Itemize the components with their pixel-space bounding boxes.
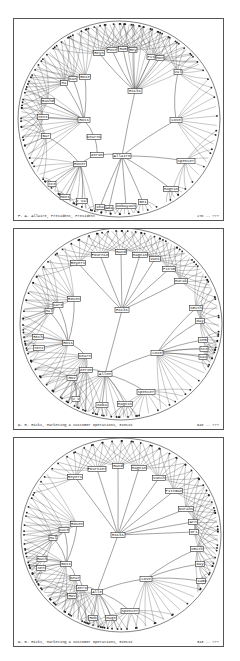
tree-node-mal[interactable]: Mal (45, 308, 53, 313)
tree-node-rach[interactable]: Rach (37, 556, 47, 561)
svg-text:Kobayash: Kobayash (116, 204, 136, 208)
tree-node-rob[interactable]: Rob (89, 615, 98, 620)
tree-node-j-v[interactable]: J V (72, 396, 80, 401)
tree-node-ross[interactable]: Ross (78, 117, 90, 122)
tree-node-cha[interactable]: Cha (96, 204, 105, 209)
tree-node-kobayash[interactable]: Kobayash (116, 203, 136, 208)
tree-node-cam[interactable]: Cam (197, 578, 206, 583)
tree-node-fournier[interactable]: Fournier (87, 466, 107, 471)
tree-node-day[interactable]: Day (196, 318, 205, 323)
tree-node-ham[interactable]: Ham (119, 46, 128, 51)
tree-node-vanc[interactable]: Vanc (150, 256, 161, 261)
tree-node-rashd[interactable]: Rashd (42, 98, 55, 103)
tree-node-j-val[interactable]: J Val (76, 198, 89, 203)
tree-node-mal[interactable]: Mal (49, 535, 57, 540)
tree-node-sent[interactable]: Sent (34, 345, 45, 350)
svg-text:Ham: Ham (119, 47, 127, 51)
selected-person-label: W. R. Hicks, Marketing & Customer Operat… (18, 640, 133, 644)
tree-canvas-3[interactable]: HicksReyersFournierRandMagninVanchPittma… (14, 438, 225, 648)
tree-node-magnin[interactable]: Magnin (164, 186, 179, 191)
tree-node-rosen[interactable]: Rosen (71, 521, 84, 526)
tree-node-vanch[interactable]: Vanch (153, 475, 166, 480)
tree-node-kearns[interactable]: Kearns (87, 134, 102, 139)
tree-node-rey[interactable]: Rey (129, 47, 137, 52)
tree-node-mage[interactable]: Mage (106, 615, 117, 620)
tree-node-zeron[interactable]: Zeron (91, 152, 104, 157)
tree-node-bar[interactable]: Bar (42, 133, 51, 138)
tree-node-ada[interactable]: Ada (105, 205, 113, 210)
tree-node-ross[interactable]: Ross (63, 340, 74, 345)
tree-node-hicks[interactable]: Hicks (115, 307, 129, 312)
tree-node-mon[interactable]: Mon (156, 55, 164, 60)
tree-node-rand[interactable]: Rand (116, 249, 127, 254)
tree-node-kearn[interactable]: Kearn (79, 353, 92, 358)
svg-text:Smith: Smith (190, 306, 203, 310)
tree-node-fournie[interactable]: Fournie (92, 252, 109, 257)
tree-node-kear[interactable]: Kear (70, 575, 80, 580)
tree-node-sent[interactable]: Sent (38, 114, 49, 119)
tree-node-magnin[interactable]: Magnin (118, 401, 133, 406)
tree-node-reyn[interactable]: Reyn (94, 50, 105, 55)
tree-node-rosen[interactable]: Rosen (68, 296, 81, 301)
tree-node-ste[interactable]: Ste (200, 346, 208, 351)
tree-node-mont[interactable]: Mont (60, 194, 70, 199)
tree-node-pittman[interactable]: Pittman (166, 488, 183, 493)
tree-node-sen[interactable]: Sen (37, 565, 46, 570)
tree-node-love[interactable]: Love (140, 576, 152, 581)
tree-node-four[interactable]: Four (107, 47, 117, 52)
tree-node-bei[interactable]: Bei (139, 199, 148, 204)
tree-node-hicks[interactable]: Hicks (111, 532, 125, 537)
tree-node-reyers[interactable]: Reyers (68, 474, 83, 479)
hyperbolic-tree-panel-3[interactable]: HicksReyersFournierRandMagninVanchPittma… (13, 437, 224, 647)
tree-node-spencer[interactable]: Spencer (177, 158, 195, 163)
selected-person-label: W. R. Hicks, Marketing & Customer Operat… (18, 423, 133, 427)
tree-node-love[interactable]: Love (151, 350, 163, 355)
tree-node-magnin[interactable]: Magnin (133, 252, 148, 257)
tree-node-hover[interactable]: Hover (74, 161, 87, 166)
tree-node-care[interactable]: Care (53, 302, 63, 307)
tree-node-dri[interactable]: Dri (190, 529, 199, 534)
tree-node-ste[interactable]: Ste (48, 181, 56, 186)
tree-node-rand[interactable]: Rand (113, 463, 124, 468)
tree-node-hov[interactable]: Hov (68, 593, 77, 598)
tree-node-arn[interactable]: Arn (189, 519, 198, 524)
tree-node-spencer[interactable]: Spencer (137, 389, 155, 394)
tree-node-sau[interactable]: Sau (199, 354, 207, 359)
tree-node-pit[interactable]: Pit (147, 54, 155, 59)
tree-nodes[interactable]: HicksReyersFournierRandMagninVanchPittma… (37, 463, 206, 620)
tree-node-smith[interactable]: Smith (191, 546, 204, 551)
tree-node-zeron[interactable]: Zeron (80, 367, 93, 372)
hyperbolic-tree-panel-2[interactable]: HicksAllenZeronKearnRossHovJ VKobaMagnin… (13, 228, 224, 430)
tree-node-cem[interactable]: Cem (199, 337, 208, 342)
tree-node-reyers[interactable]: Reyers (71, 260, 86, 265)
tree-canvas-2[interactable]: HicksAllenZeronKearnRossHovJ VKobaMagnin… (14, 229, 225, 431)
tree-node-allen[interactable]: Allen (98, 371, 112, 376)
tree-node-ma[interactable]: Ma (61, 80, 68, 85)
tree-node-ross[interactable]: Ross (61, 561, 72, 566)
tree-node-val[interactable]: Val (174, 69, 182, 74)
tree-node-murak[interactable]: Murak (175, 278, 188, 283)
tree-node-magnin[interactable]: Magnin (132, 465, 147, 470)
tree-node-nurahs[interactable]: Nurahs (179, 506, 194, 511)
tree-node-day[interactable]: Day (196, 561, 205, 566)
svg-text:Cha: Cha (96, 205, 104, 209)
svg-text:Rose: Rose (80, 75, 90, 79)
tree-node-can[interactable]: Can (69, 76, 77, 81)
tree-node-hov[interactable]: Hov (67, 375, 77, 380)
tree-node-cace[interactable]: Cace (59, 527, 69, 532)
tree-node-koba[interactable]: Koba (96, 402, 108, 407)
tree-node-hicks[interactable]: Hicks (128, 88, 142, 93)
tree-node-zero[interactable]: Zero (77, 585, 88, 590)
tree-node-spencer[interactable]: Spencer (121, 608, 139, 613)
tree-node-rech[interactable]: Rech (33, 334, 44, 339)
tree-node-rose[interactable]: Rose (80, 74, 91, 79)
tree-node-allaire[interactable]: Allaire (113, 153, 131, 158)
tree-node-love[interactable]: Love (170, 117, 182, 122)
tree-node-alle[interactable]: Alle (92, 589, 103, 594)
tree-nodes[interactable]: AllaireHicksLoveSpencerMagninBeiKobayash… (38, 46, 196, 210)
tree-node-pittm[interactable]: Pittm (163, 266, 176, 271)
hyperbolic-tree-panel-1[interactable]: AllaireHicksLoveSpencerMagninBeiKobayash… (13, 18, 224, 221)
svg-text:Smith: Smith (191, 547, 204, 551)
tree-node-smith[interactable]: Smith (190, 305, 203, 310)
tree-canvas-1[interactable]: AllaireHicksLoveSpencerMagninBeiKobayash… (14, 19, 225, 222)
